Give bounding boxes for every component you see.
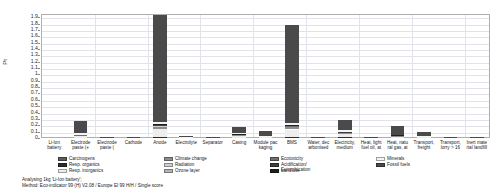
bar-segment [206, 137, 220, 138]
y-axis-ticks: 00.10.20.30.40.50.60.70.80.911.11.21.31.… [0, 14, 38, 138]
bar-segment [285, 127, 299, 130]
y-tick-mark [38, 24, 40, 25]
bar-segment [470, 137, 484, 138]
y-tick-label: 1.8 [31, 21, 38, 26]
bar-segment [74, 121, 88, 133]
legend-swatch [164, 163, 173, 167]
bar-9[interactable] [285, 25, 299, 138]
legend-item[interactable]: Resp. organics [58, 162, 100, 167]
bar-14[interactable] [417, 132, 431, 138]
bar-segment [74, 133, 88, 134]
caption-line-2: Method: Eco-indicator 99 (H) V2.08 / Eur… [22, 183, 163, 189]
bar-11[interactable] [338, 120, 352, 138]
y-tick-mark [38, 132, 40, 133]
y-tick-mark [38, 138, 40, 139]
bar-segment [338, 133, 352, 134]
y-tick-mark [38, 62, 40, 63]
legend-item[interactable]: Minerals [376, 156, 404, 161]
y-tick-label: 0.4 [31, 110, 38, 115]
bar-2[interactable] [100, 137, 114, 138]
y-tick-label: 1.5 [31, 40, 38, 45]
plot-area [41, 14, 490, 138]
x-tick-label: Inert mate rial landfill [462, 140, 492, 151]
bar-segment [391, 136, 405, 137]
bar-4[interactable] [153, 15, 167, 138]
bar-segment [338, 134, 352, 137]
legend-item[interactable]: Ozone layer [164, 168, 200, 173]
legend-swatch [376, 157, 385, 161]
bar-segment [74, 135, 88, 136]
legend-item[interactable]: Land use [270, 168, 300, 173]
legend-label: Ozone layer [175, 168, 200, 173]
bar-segment [391, 126, 405, 135]
y-tick-mark [38, 119, 40, 120]
legend-item[interactable]: Resp. inorganics [58, 168, 103, 173]
bar-segment [100, 137, 114, 138]
legend-swatch [270, 169, 279, 173]
bar-segment [153, 137, 167, 138]
y-tick-label: 0.5 [31, 104, 38, 109]
bar-segment [153, 15, 167, 122]
y-tick-label: 1.9 [31, 15, 38, 20]
bar-segment [153, 126, 167, 129]
bar-12[interactable] [364, 137, 378, 138]
y-tick-label: 1.3 [31, 53, 38, 58]
bar-segment [417, 132, 431, 136]
bar-segment [338, 132, 352, 133]
bar-segment [232, 127, 246, 133]
y-tick-label: 0.6 [31, 97, 38, 102]
bar-segment [391, 136, 405, 137]
y-tick-mark [38, 87, 40, 88]
y-tick-label: 0.8 [31, 85, 38, 90]
bar-segment [153, 125, 167, 126]
y-tick-label: 0.7 [31, 91, 38, 96]
bar-7[interactable] [232, 127, 246, 138]
bar-segment [153, 125, 167, 126]
bar-6[interactable] [206, 137, 220, 138]
legend-label: Minerals [387, 156, 404, 161]
bar-segment [311, 137, 325, 138]
legend-item[interactable]: Radiation [164, 162, 194, 167]
bar-segment [232, 136, 246, 138]
bar-5[interactable] [179, 136, 193, 138]
bar-segment [338, 120, 352, 130]
y-tick-label: 1.1 [31, 65, 38, 70]
legend-swatch [164, 157, 173, 161]
bar-segment [179, 136, 193, 137]
y-tick-mark [38, 113, 40, 114]
bar-3[interactable] [127, 137, 141, 138]
y-tick-label: 1.4 [31, 46, 38, 51]
legend-item[interactable]: Fossil fuels [376, 162, 410, 167]
legend-label: Ecotoxicity [281, 156, 303, 161]
y-tick-mark [38, 55, 40, 56]
legend-item[interactable]: Carcinogens [58, 156, 95, 161]
y-tick-mark [38, 74, 40, 75]
legend-label: Resp. organics [69, 162, 100, 167]
y-tick-mark [38, 30, 40, 31]
bar-series-container [41, 14, 490, 138]
bar-8[interactable] [259, 131, 273, 138]
bar-segment [232, 135, 246, 136]
bar-segment [153, 129, 167, 137]
legend-item[interactable]: Ecotoxicity [270, 156, 303, 161]
bar-segment [338, 130, 352, 131]
legend-label: Radiation [175, 162, 194, 167]
y-tick-label: 1.2 [31, 59, 38, 64]
y-tick-mark [38, 125, 40, 126]
bar-1[interactable] [74, 121, 88, 138]
y-tick-mark [38, 43, 40, 44]
y-tick-label: 0.9 [31, 78, 38, 83]
x-axis-labels: Li-Ion batteryElectrode paste (+Electrod… [41, 140, 490, 156]
bar-segment [285, 123, 299, 125]
bar-segment [338, 137, 352, 138]
bar-13[interactable] [391, 126, 405, 138]
legend-swatch [376, 163, 385, 167]
y-tick-mark [38, 17, 40, 18]
bar-segment [417, 137, 431, 138]
y-tick-mark [38, 93, 40, 94]
legend-swatch [58, 169, 67, 173]
legend-item[interactable]: Climate change [164, 156, 207, 161]
legend-label: Climate change [175, 156, 207, 161]
bar-segment [153, 122, 167, 124]
bar-segment [285, 25, 299, 123]
